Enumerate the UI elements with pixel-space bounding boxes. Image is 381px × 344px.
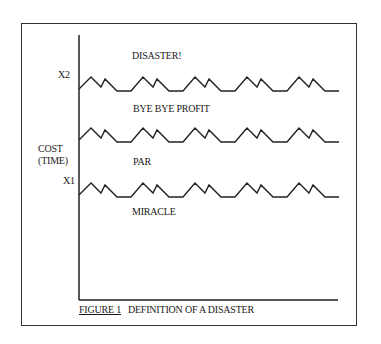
diagram-canvas xyxy=(0,0,381,344)
region-label-disaster: DISASTER! xyxy=(132,50,181,61)
y-axis-label-time: (TIME) xyxy=(38,155,68,166)
y-axis-label-cost: COST xyxy=(38,143,63,154)
par-line-zigzag xyxy=(79,128,339,142)
region-label-bye-bye-profit: BYE BYE PROFIT xyxy=(133,103,210,114)
x2-threshold-zigzag xyxy=(79,77,339,91)
x1-threshold-zigzag xyxy=(79,183,339,197)
figure-number: FIGURE 1 xyxy=(79,304,121,315)
figure-caption: FIGURE 1 DEFINITION OF A DISASTER xyxy=(79,304,254,315)
region-label-miracle: MIRACLE xyxy=(132,206,176,217)
figure-title: DEFINITION OF A DISASTER xyxy=(128,304,254,315)
region-label-par: PAR xyxy=(133,156,151,167)
tick-label-x1: X1 xyxy=(63,175,75,186)
tick-label-x2: X2 xyxy=(58,69,70,80)
